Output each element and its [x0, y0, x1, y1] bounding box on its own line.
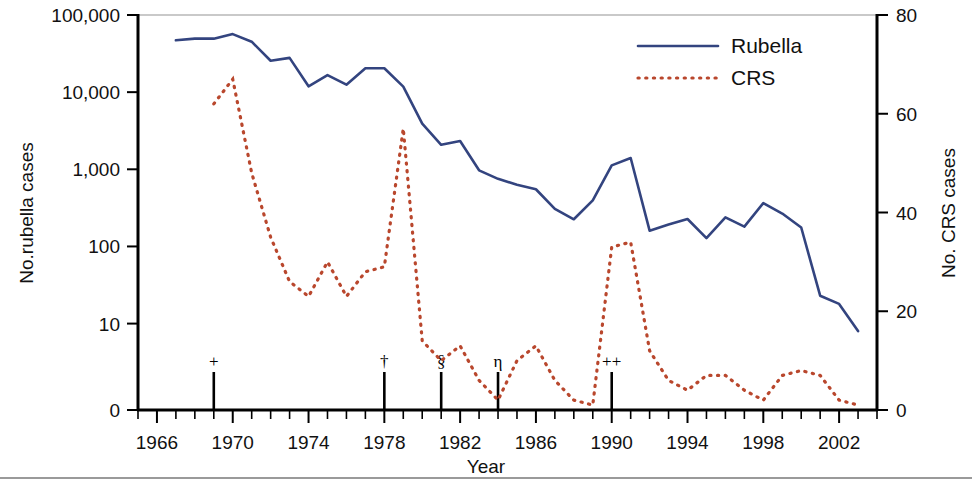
annotation-marker-symbol: †	[380, 352, 389, 371]
rubella-crs-line-chart: 0101001,00010,000100,000 No.rubella case…	[0, 0, 972, 479]
annotation-marker-symbol: §	[437, 352, 446, 371]
x-axis-tick-label: 1994	[666, 432, 709, 453]
right-axis-tick-label: 0	[896, 400, 907, 421]
right-axis-title: No. CRS cases	[938, 148, 959, 278]
x-axis-tick-label: 1966	[136, 432, 178, 453]
x-axis-tick-label: 1978	[363, 432, 405, 453]
x-axis-tick-label: 1982	[439, 432, 481, 453]
right-axis-tick-label: 80	[896, 5, 917, 26]
x-axis-tick-label: 1970	[212, 432, 254, 453]
x-axis-tick-label: 1986	[515, 432, 557, 453]
annotation-marker-symbol: η	[494, 352, 503, 371]
left-axis-tick-label: 10	[99, 314, 120, 335]
chart-figure: 0101001,00010,000100,000 No.rubella case…	[0, 0, 972, 479]
left-axis-tick-label: 10,000	[62, 82, 120, 103]
x-axis-title: Year	[467, 456, 506, 477]
annotation-marker-symbol: ++	[602, 352, 621, 371]
left-axis-tick-label: 100	[88, 236, 120, 257]
left-axis-tick-label: 100,000	[51, 5, 120, 26]
right-axis-tick-label: 60	[896, 104, 917, 125]
right-axis-tick-label: 40	[896, 203, 917, 224]
annotation-marker-symbol: +	[209, 352, 219, 371]
left-axis-tick-label: 0	[109, 400, 120, 421]
left-axis-tick-label: 1,000	[72, 159, 120, 180]
chart-background	[0, 0, 972, 479]
x-axis-tick-label: 1974	[287, 432, 330, 453]
legend-label-rubella: Rubella	[731, 34, 803, 57]
x-axis-tick-label: 1990	[591, 432, 633, 453]
legend-label-crs: CRS	[731, 66, 775, 89]
x-axis-tick-label: 1998	[742, 432, 784, 453]
right-axis-tick-label: 20	[896, 301, 917, 322]
left-axis-title: No.rubella cases	[16, 142, 37, 284]
x-axis-tick-label: 2002	[818, 432, 860, 453]
